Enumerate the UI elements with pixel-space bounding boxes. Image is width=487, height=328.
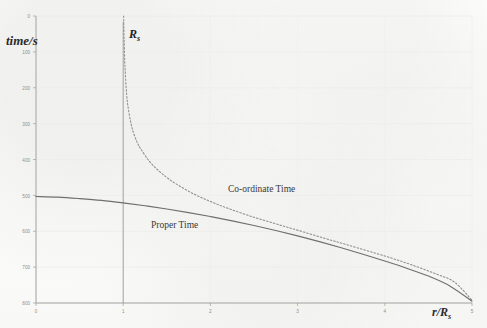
x-tick-label: 2 xyxy=(209,309,212,314)
x-tick-label: 1 xyxy=(122,309,125,314)
y-axis-title: time/s xyxy=(6,33,38,48)
y-tick-label: 500 xyxy=(22,194,30,199)
proper-time-curve xyxy=(36,196,472,301)
x-axis-ticks: 012345 xyxy=(35,303,474,314)
y-tick-label: 0 xyxy=(27,14,30,19)
proper-time-label: Proper Time xyxy=(151,220,198,230)
x-tick-label: 3 xyxy=(296,309,299,314)
asymptote-label-main: R xyxy=(128,27,137,41)
x-tick-label: 5 xyxy=(471,309,474,314)
y-tick-label: 600 xyxy=(22,229,30,234)
gridlines xyxy=(36,16,472,303)
asymptote-label: Rs xyxy=(128,27,140,43)
asymptote-label-subscript: s xyxy=(136,34,140,43)
x-axis-title: r/Rs xyxy=(432,305,451,321)
y-tick-label: 800 xyxy=(22,301,30,306)
y-axis-ticks: 8007006005004003002001000 xyxy=(22,14,36,306)
y-tick-label: 400 xyxy=(22,158,30,163)
x-axis-title-subscript: s xyxy=(447,312,451,321)
y-tick-label: 700 xyxy=(22,265,30,270)
x-tick-label: 0 xyxy=(35,309,38,314)
coordinate-time-label: Co-ordinate Time xyxy=(228,184,295,194)
y-tick-label: 100 xyxy=(22,50,30,55)
x-tick-label: 4 xyxy=(384,309,387,314)
figure-root: 8007006005004003002001000 012345 time/s … xyxy=(0,0,487,328)
y-tick-label: 200 xyxy=(22,86,30,91)
y-tick-label: 300 xyxy=(22,122,30,127)
schwarzschild-time-plot: 8007006005004003002001000 012345 time/s … xyxy=(0,0,487,328)
x-axis-title-main: r/R xyxy=(432,305,448,319)
